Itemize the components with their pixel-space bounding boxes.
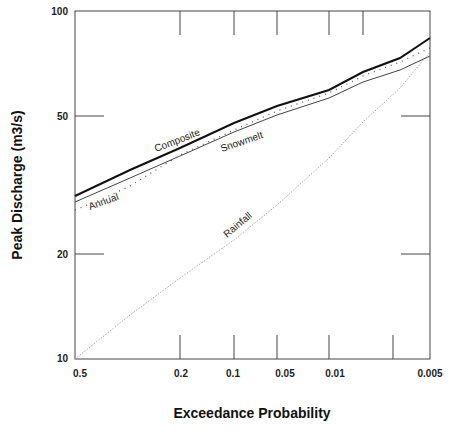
y-tick-label: 50 xyxy=(57,111,69,122)
frequency-chart: 100 50 20 10 0.5 0.2 0.1 0.05 0.01 0.005… xyxy=(0,0,455,434)
x-axis-title: Exceedance Probability xyxy=(173,405,330,421)
x-tick-label: 0.1 xyxy=(226,368,240,379)
snowmelt-label: Snowmelt xyxy=(219,129,264,154)
annual-label: Annual xyxy=(87,191,120,212)
x-tick-label: 0.5 xyxy=(73,368,87,379)
rainfall-label: Rainfall xyxy=(221,210,254,240)
snowmelt-curve xyxy=(75,56,430,202)
y-tick-label: 10 xyxy=(57,353,69,364)
x-tick-label: 0.005 xyxy=(417,368,442,379)
plot-frame xyxy=(75,11,430,359)
x-tick-label: 0.05 xyxy=(275,368,295,379)
x-ticks xyxy=(180,11,393,359)
composite-curve xyxy=(75,38,430,196)
y-tick-label: 20 xyxy=(57,249,69,260)
rainfall-curve xyxy=(75,52,430,359)
x-tick-label: 0.01 xyxy=(325,368,345,379)
y-tick-label: 100 xyxy=(51,6,68,17)
x-tick-label: 0.2 xyxy=(174,368,188,379)
y-axis-title: Peak Discharge (m3/s) xyxy=(9,110,25,259)
annual-curve xyxy=(75,48,430,210)
